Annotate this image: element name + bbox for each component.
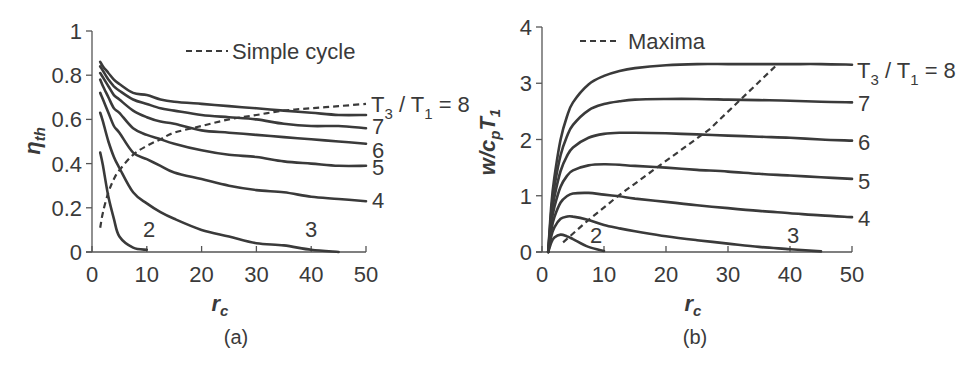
y-tick-label: 2: [520, 128, 532, 153]
x-tick-label: 30: [244, 262, 268, 287]
y-tick-label: 4: [520, 15, 532, 40]
x-tick-label: 0: [86, 262, 98, 287]
x-tick-label: 40: [778, 262, 802, 287]
panel-a-curves: [100, 62, 366, 252]
x-tick-label: 0: [536, 262, 548, 287]
x-tick-label: 50: [840, 262, 864, 287]
series-maxima: [563, 64, 778, 242]
series-t3-t1-7: [100, 66, 366, 128]
x-tick-label: 30: [716, 262, 740, 287]
panel-b-family-label: T3 / T1 = 8: [857, 58, 956, 88]
panel-b-curve-label-2: 2: [590, 223, 602, 248]
panel-b-curve-label-4: 4: [858, 206, 870, 231]
x-tick-label: 20: [189, 262, 213, 287]
panel-b-curve-label-5: 5: [858, 169, 870, 194]
figure: 00.20.40.60.8101020304050 Simple cycle T…: [0, 0, 975, 370]
panel-a-curve-label-7: 7: [372, 114, 384, 139]
panel-b-curve-label-3: 3: [787, 223, 799, 248]
y-tick-label: 0.4: [51, 152, 82, 177]
panel-a-family-label: T3 / T1 = 8: [371, 92, 470, 122]
x-tick-label: 40: [299, 262, 323, 287]
panel-b-curve-label-7: 7: [858, 91, 870, 116]
x-tick-label: 50: [354, 262, 378, 287]
y-tick-label: 0.8: [51, 63, 82, 88]
panel-a-curve-label-2: 2: [143, 217, 155, 242]
y-tick-label: 1: [520, 184, 532, 209]
y-tick-label: 0: [520, 240, 532, 265]
series-t3-t1-4: [100, 93, 366, 201]
panel-b-x-axis-title: rc: [685, 291, 703, 319]
panel-b-work-chart: 0123401020304050 Maxima T3 / T1 = 8 7 6 …: [475, 15, 956, 348]
panel-a-x-axis-title: rc: [212, 291, 230, 319]
legend-maxima-label: Maxima: [628, 29, 706, 54]
y-tick-label: 0: [70, 240, 82, 265]
legend-simple-cycle-label: Simple cycle: [232, 39, 355, 64]
panel-b-caption: (b): [683, 326, 707, 348]
y-tick-label: 1: [70, 19, 82, 44]
panel-b-axes: 0123401020304050: [520, 15, 864, 287]
series-t3-t1-5: [100, 80, 366, 166]
y-tick-label: 3: [520, 71, 532, 96]
y-tick-label: 0.2: [51, 196, 82, 221]
y-tick-label: 0.6: [51, 107, 82, 132]
series-t3-t1-2: [100, 153, 147, 250]
panel-b-y-axis-title: w/cpT1: [475, 109, 503, 175]
x-tick-label: 20: [654, 262, 678, 287]
panel-a-curve-label-3: 3: [305, 217, 317, 242]
panel-a-caption: (a): [224, 326, 248, 348]
panel-a-y-axis-title: ηth: [20, 127, 48, 155]
x-tick-label: 10: [135, 262, 159, 287]
x-tick-label: 10: [592, 262, 616, 287]
panel-a-curve-label-4: 4: [372, 188, 384, 213]
panel-a-efficiency-chart: 00.20.40.60.8101020304050 Simple cycle T…: [20, 19, 470, 348]
panel-b-curve-label-6: 6: [858, 130, 870, 155]
panel-a-curve-label-5: 5: [372, 155, 384, 180]
